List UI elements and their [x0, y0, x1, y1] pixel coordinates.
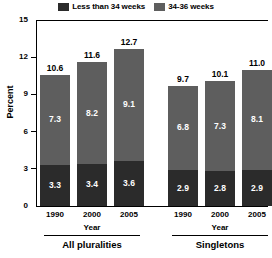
x-tick-label-1990-1: 1990: [168, 209, 198, 220]
bar-segment-34-36-weeks: 8.2: [77, 62, 107, 164]
bar-segment-34-36-weeks: 7.3: [40, 75, 70, 166]
legend-label-34-36-weeks: 34-36 weeks: [168, 2, 214, 11]
legend-item-34-36-weeks: 34-36 weeks: [154, 2, 214, 11]
group-name-label: Singletons: [168, 238, 272, 251]
bar-segment-value: 6.8: [177, 123, 189, 132]
bar-total-label: 9.7: [177, 75, 189, 84]
bar-segment-value: 3.4: [86, 180, 98, 189]
bar-segment-less-than-34-weeks: 2.9: [242, 170, 272, 206]
bars-layer: 3.37.310.63.48.211.63.69.112.72.96.89.72…: [36, 20, 268, 206]
x-axis-group-1: YearAll pluralities: [40, 222, 144, 256]
bar-segment-value: 3.6: [123, 179, 135, 188]
bar-total-label: 10.1: [212, 70, 229, 79]
x-axis-line: [36, 206, 268, 207]
bar-segment-value: 2.8: [214, 184, 226, 193]
bar-segment-value: 8.1: [251, 115, 263, 124]
bar-segment-value: 3.3: [49, 181, 61, 190]
bar: 3.48.211.6: [77, 62, 107, 206]
bar: 2.96.89.7: [168, 86, 198, 206]
bar-segment-less-than-34-weeks: 2.8: [205, 171, 235, 206]
bar-segment-value: 8.2: [86, 109, 98, 118]
x-tick-label-1990-0: 1990: [40, 209, 70, 220]
bar-total-label: 12.7: [121, 38, 138, 47]
bar-total-label: 11.0: [249, 59, 265, 68]
y-tick-label: 6: [24, 127, 28, 137]
bar-segment-34-36-weeks: 7.3: [205, 81, 235, 172]
bar: 2.87.310.1: [205, 81, 235, 206]
x-tick-label-2000-1: 2000: [205, 209, 235, 220]
x-axis-caption: Year: [40, 222, 144, 233]
bar-segment-less-than-34-weeks: 3.3: [40, 165, 70, 206]
bar: 2.98.111.0: [242, 70, 272, 206]
bar-segment-34-36-weeks: 9.1: [114, 49, 144, 162]
bar-segment-value: 7.3: [214, 122, 226, 131]
x-tick-label-2005-0: 2005: [114, 209, 144, 220]
y-tick-label: 12: [19, 52, 28, 62]
x-axis-tick-labels: 199020002005199020002005: [36, 209, 268, 221]
bar-segment-value: 7.3: [49, 115, 61, 124]
bar: 3.69.112.7: [114, 49, 144, 206]
bar-segment-value: 2.9: [177, 184, 189, 193]
group-separator-rule: [44, 235, 140, 236]
bar: 3.37.310.6: [40, 75, 70, 206]
y-tick-label: 9: [24, 89, 28, 99]
chart-legend: Less than 34 weeks 34-36 weeks: [0, 2, 272, 11]
bar-segment-value: 9.1: [123, 100, 135, 109]
bar-segment-34-36-weeks: 8.1: [242, 70, 272, 170]
stacked-bar-chart: Less than 34 weeks 34-36 weeks 15129630 …: [0, 0, 272, 258]
bar-segment-value: 2.9: [251, 184, 263, 193]
x-axis-caption: Year: [168, 222, 272, 233]
bar-segment-less-than-34-weeks: 3.6: [114, 161, 144, 206]
group-name-label: All pluralities: [40, 238, 144, 251]
legend-swatch-less-than-34-weeks: [58, 3, 69, 11]
legend-item-less-than-34-weeks: Less than 34 weeks: [58, 2, 145, 11]
bar-segment-less-than-34-weeks: 3.4: [77, 164, 107, 206]
y-axis-label: Percent: [5, 72, 15, 132]
bar-segment-34-36-weeks: 6.8: [168, 86, 198, 170]
bar-total-label: 11.6: [84, 51, 100, 60]
y-tick-label: 15: [19, 15, 28, 25]
bar-segment-less-than-34-weeks: 2.9: [168, 170, 198, 206]
bar-total-label: 10.6: [47, 64, 64, 73]
legend-label-less-than-34-weeks: Less than 34 weeks: [72, 2, 145, 11]
group-separator-rule: [172, 235, 268, 236]
x-axis-group-2: YearSingletons: [168, 222, 272, 256]
x-tick-label-2000-0: 2000: [77, 209, 107, 220]
x-tick-label-2005-1: 2005: [242, 209, 272, 220]
legend-swatch-34-36-weeks: [154, 3, 165, 11]
y-tick-label: 0: [24, 201, 28, 211]
y-tick-label: 3: [24, 164, 28, 174]
